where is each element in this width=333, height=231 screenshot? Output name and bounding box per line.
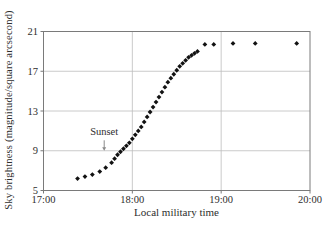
data-point (83, 174, 88, 179)
data-point (202, 42, 207, 47)
sunset-arrow-head-icon (102, 147, 106, 151)
x-tick-label: 19:00 (209, 194, 233, 205)
x-tick-label: 18:00 (120, 194, 144, 205)
data-point (165, 80, 170, 85)
data-point (163, 85, 168, 90)
y-axis-title: Sky brightness (magnitude/square arcseco… (3, 10, 14, 210)
x-axis-title: Local military time (43, 206, 310, 218)
data-point (75, 176, 80, 181)
data-point (109, 160, 114, 165)
y-tick-label: 13 (28, 106, 39, 117)
data-point (168, 76, 173, 81)
sky-brightness-figure: 17:0018:0019:0020:0059131721Sunset Sky b… (0, 0, 333, 231)
y-tick-label: 9 (33, 145, 38, 156)
data-point (154, 100, 159, 105)
plot-area: 17:0018:0019:0020:0059131721Sunset (0, 0, 333, 231)
data-point (145, 115, 150, 120)
data-point (130, 136, 135, 141)
data-point (124, 143, 129, 148)
data-point (115, 152, 120, 157)
data-point (118, 149, 123, 154)
data-point (90, 172, 95, 177)
data-point (139, 125, 144, 130)
data-point (142, 120, 147, 125)
data-point (151, 105, 156, 110)
data-point (211, 42, 216, 47)
sunset-annotation-label: Sunset (90, 126, 118, 137)
data-point (157, 95, 162, 100)
data-point (253, 41, 258, 46)
data-point (103, 165, 108, 170)
x-tick-label: 20:00 (298, 194, 322, 205)
data-point (231, 41, 236, 46)
data-point (127, 140, 132, 145)
y-tick-label: 21 (28, 26, 39, 37)
data-point (133, 132, 138, 137)
data-point (97, 169, 102, 174)
data-point (160, 90, 165, 95)
data-point (174, 68, 179, 73)
data-point (136, 128, 141, 133)
data-point (177, 64, 182, 69)
data-point (171, 72, 176, 77)
data-point (183, 58, 188, 63)
data-point (180, 61, 185, 66)
y-tick-label: 17 (28, 66, 39, 77)
data-point (294, 41, 299, 46)
y-tick-label: 5 (33, 185, 38, 196)
data-point (148, 110, 153, 115)
data-point (112, 156, 117, 161)
